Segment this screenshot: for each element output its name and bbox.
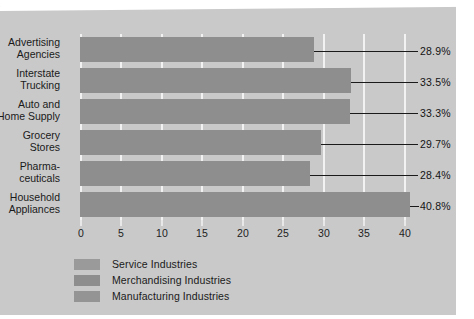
- x-tick: [363, 220, 365, 226]
- leader-line: [321, 144, 418, 145]
- category-label-line: Auto and: [0, 99, 60, 111]
- x-tick: [120, 220, 122, 226]
- category-label-line: Agencies: [0, 49, 60, 61]
- category-label: Advertising Agencies: [0, 37, 60, 60]
- value-label: 28.4%: [420, 169, 451, 181]
- category-label-line: ceuticals: [0, 173, 60, 185]
- x-tick-label: 20: [228, 227, 258, 239]
- x-tick: [323, 220, 325, 226]
- category-label-line: Advertising: [0, 37, 60, 49]
- x-tick-label: 5: [106, 227, 136, 239]
- chart-legend: Service Industries Merchandising Industr…: [74, 256, 231, 304]
- x-tick-label: 15: [187, 227, 217, 239]
- category-label: Household Appliances: [0, 192, 60, 215]
- chart-page: Advertising Agencies Interstate Trucking…: [0, 0, 474, 319]
- leader-line: [314, 51, 418, 52]
- legend-item: Merchandising Industries: [74, 272, 231, 288]
- category-label-line: Appliances: [0, 204, 60, 216]
- bar: [80, 161, 310, 186]
- x-tick-label: 40: [390, 227, 420, 239]
- bar: [80, 99, 350, 124]
- x-tick-label: 30: [309, 227, 339, 239]
- legend-label: Manufacturing Industries: [112, 290, 229, 302]
- category-label-line: Grocery: [0, 130, 60, 142]
- category-label: Grocery Stores: [0, 130, 60, 153]
- category-label-line: Home Supply: [0, 111, 60, 123]
- x-tick: [201, 220, 203, 226]
- plot-area: [80, 34, 410, 220]
- category-label-line: Household: [0, 192, 60, 204]
- x-tick: [404, 220, 406, 226]
- category-label-line: Stores: [0, 142, 60, 154]
- legend-item: Service Industries: [74, 256, 231, 272]
- legend-swatch-merchandising-industries: [74, 275, 100, 286]
- legend-label: Merchandising Industries: [112, 274, 231, 286]
- value-label: 28.9%: [420, 45, 451, 57]
- legend-swatch-manufacturing-industries: [74, 291, 100, 302]
- leader-line: [351, 82, 418, 83]
- category-label: Interstate Trucking: [0, 68, 60, 91]
- bar: [80, 37, 314, 62]
- x-tick-label: 25: [268, 227, 298, 239]
- chart-card: Advertising Agencies Interstate Trucking…: [0, 6, 456, 315]
- value-label: 33.3%: [420, 107, 451, 119]
- x-tick-label: 35: [349, 227, 379, 239]
- bar: [80, 68, 351, 93]
- legend-label: Service Industries: [112, 258, 197, 270]
- x-tick-label: 10: [147, 227, 177, 239]
- leader-line: [310, 175, 418, 176]
- category-label: Auto and Home Supply: [0, 99, 60, 122]
- value-label: 40.8%: [420, 200, 451, 212]
- legend-swatch-service-industries: [74, 259, 100, 270]
- value-label: 33.5%: [420, 76, 451, 88]
- x-tick: [282, 220, 284, 226]
- category-label: Pharma- ceuticals: [0, 161, 60, 184]
- bar: [80, 192, 410, 217]
- x-tick: [80, 220, 82, 226]
- leader-line: [410, 206, 419, 207]
- value-label: 29.7%: [420, 138, 451, 150]
- x-tick: [242, 220, 244, 226]
- x-tick: [161, 220, 163, 226]
- category-label-line: Pharma-: [0, 161, 60, 173]
- x-tick-label: 0: [66, 227, 96, 239]
- legend-item: Manufacturing Industries: [74, 288, 231, 304]
- leader-line: [350, 113, 418, 114]
- bar: [80, 130, 321, 155]
- category-label-line: Interstate: [0, 68, 60, 80]
- category-label-line: Trucking: [0, 80, 60, 92]
